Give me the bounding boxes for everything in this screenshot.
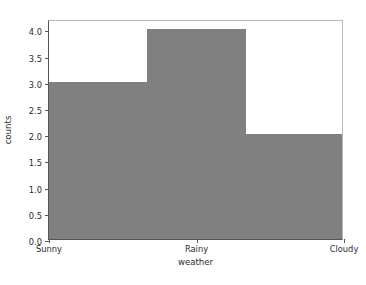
y-axis-label: counts <box>4 116 13 145</box>
bar-sunny <box>49 82 147 239</box>
y-tick: 1.0 <box>45 189 49 190</box>
x-axis-label: weather <box>48 258 343 267</box>
x-tick <box>197 239 198 243</box>
x-tick-label: Cloudy <box>330 245 359 253</box>
y-tick: 4.0 <box>45 31 49 32</box>
y-tick: 3.5 <box>45 58 49 59</box>
y-tick-label: 2.5 <box>29 107 42 115</box>
y-tick-label: 4.0 <box>29 28 42 36</box>
y-tick-label: 1.0 <box>29 185 42 193</box>
bars-container <box>49 21 342 239</box>
y-tick-label: 1.5 <box>29 159 42 167</box>
x-tick <box>49 239 50 243</box>
x-tick-label: Rainy <box>185 245 208 253</box>
y-tick: 3.0 <box>45 84 49 85</box>
plot-area: 0.00.51.01.52.02.53.03.54.0 SunnyRainyCl… <box>48 20 343 240</box>
bar-cloudy <box>246 134 342 239</box>
y-tick-label: 2.0 <box>29 133 42 141</box>
y-tick-label: 0.5 <box>29 212 42 220</box>
x-tick <box>344 239 345 243</box>
y-tick-label: 3.5 <box>29 55 42 63</box>
y-tick: 1.5 <box>45 162 49 163</box>
y-tick: 2.0 <box>45 136 49 137</box>
x-tick-label: Sunny <box>36 245 62 253</box>
y-tick-label: 3.0 <box>29 81 42 89</box>
chart-figure: 0.00.51.01.52.02.53.03.54.0 SunnyRainyCl… <box>0 0 366 285</box>
y-tick: 2.5 <box>45 110 49 111</box>
y-tick: 0.5 <box>45 215 49 216</box>
bar-rainy <box>147 29 245 239</box>
